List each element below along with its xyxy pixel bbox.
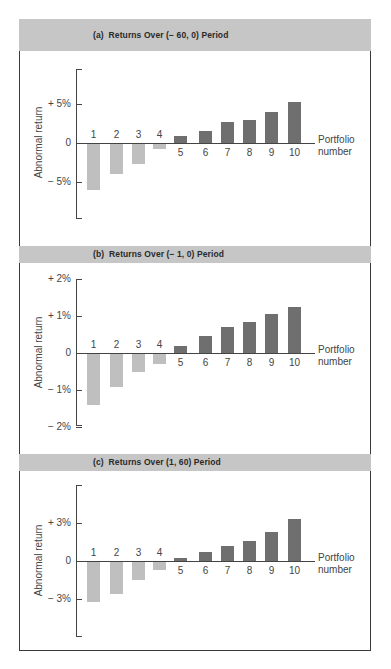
panel-b-x-axis-label: Portfolionumber: [318, 344, 355, 368]
panel-b-category-label: 4: [150, 339, 170, 350]
panel-a-bar-6: [199, 131, 212, 143]
panel-c-bar-7: [221, 546, 234, 561]
panel-c-category-label: 7: [218, 565, 238, 576]
panel-c-y-tick: [76, 599, 82, 600]
panel-b-category-label: 10: [285, 357, 305, 368]
x-label-line-2: number: [318, 146, 355, 158]
panel-a-axis-bottom-cap: [76, 218, 82, 219]
panel-c-category-label: 8: [240, 565, 260, 576]
panel-b-y-tick-label: − 2%: [31, 421, 71, 432]
panel-a-category-label: 3: [129, 129, 149, 140]
panel-b-bar-6: [199, 336, 212, 353]
panel-c-category-label: 9: [262, 565, 282, 576]
panel-b-bar-10: [288, 307, 301, 353]
panel-a-category-label: 10: [285, 147, 305, 158]
panel-a-bar-9: [265, 112, 278, 143]
panel-c-category-label: 6: [196, 565, 216, 576]
panel-b-y-axis-label: Abnormal return: [33, 313, 44, 393]
panel-b-bar-1: [87, 354, 100, 405]
panel-c-bar-2: [110, 562, 123, 594]
panel-a-category-label: 2: [107, 129, 127, 140]
panel-c-bar-6: [199, 552, 212, 561]
panel-b-bar-5: [174, 346, 187, 353]
panel-b-category-label: 3: [129, 339, 149, 350]
x-label-line-2: number: [318, 356, 355, 368]
panel-b-y-axis: [76, 279, 77, 425]
panel-b-title: (b) Returns Over (− 1, 0) Period: [93, 249, 224, 259]
panel-b-category-label: 1: [84, 339, 104, 350]
panel-b-header: (b) Returns Over (− 1, 0) Period: [19, 246, 371, 263]
panel-c-bar-10: [288, 519, 301, 561]
panel-c-category-label: 1: [84, 547, 104, 558]
panel-b-category-label: 7: [218, 357, 238, 368]
panel-b-bar-7: [221, 327, 234, 353]
panel-a-bar-4: [153, 144, 166, 149]
panel-b-axis-bottom-cap: [76, 425, 82, 426]
panel-a-category-label: 6: [196, 147, 216, 158]
panel-a-axis-top-cap: [76, 69, 82, 70]
panel-a-title: (a) Returns Over (− 60, 0) Period: [93, 30, 228, 40]
panel-c-bar-1: [87, 562, 100, 602]
panel-a-category-label: 5: [171, 147, 191, 158]
panel-c-y-tick: [76, 523, 82, 524]
panel-b-bar-8: [243, 322, 256, 353]
panel-c-axis-top-cap: [76, 485, 82, 486]
x-label-line-1: Portfolio: [318, 344, 355, 356]
panel-a-category-label: 7: [218, 147, 238, 158]
panel-b-y-tick: [76, 279, 82, 280]
panel-b-bar-3: [132, 354, 145, 372]
panel-c-bar-4: [153, 562, 166, 570]
panel-c-x-axis-label: Portfolionumber: [318, 552, 355, 576]
panel-b-category-label: 8: [240, 357, 260, 368]
panel-b-bar-4: [153, 354, 166, 364]
panel-a-category-label: 9: [262, 147, 282, 158]
panel-c-header: (c) Returns Over (1, 60) Period: [19, 454, 371, 471]
panel-c-category-label: 5: [171, 565, 191, 576]
panel-a-bar-2: [110, 144, 123, 174]
panel-a-bar-8: [243, 120, 256, 143]
panel-b-y-tick: [76, 316, 82, 317]
panel-b-category-label: 6: [196, 357, 216, 368]
panel-b-y-tick-label: + 2%: [31, 273, 71, 284]
panel-c-category-label: 4: [150, 547, 170, 558]
x-label-line-1: Portfolio: [318, 134, 355, 146]
panel-a-x-axis-label: Portfolionumber: [318, 134, 355, 158]
x-label-line-2: number: [318, 564, 355, 576]
panel-c-bar-5: [174, 558, 187, 561]
panel-c-title: (c) Returns Over (1, 60) Period: [93, 457, 221, 467]
panel-a-bar-7: [221, 122, 234, 143]
panel-b-y-tick: [76, 427, 82, 428]
panel-b-category-label: 9: [262, 357, 282, 368]
panel-a-category-label: 8: [240, 147, 260, 158]
panel-a-bar-3: [132, 144, 145, 164]
panel-b-bar-2: [110, 354, 123, 387]
panel-c-axis-bottom-cap: [76, 636, 82, 637]
panel-a-bar-1: [87, 144, 100, 190]
panel-a-bar-10: [288, 102, 301, 143]
x-label-line-1: Portfolio: [318, 552, 355, 564]
panel-b-category-label: 5: [171, 357, 191, 368]
panel-c-category-label: 2: [107, 547, 127, 558]
panel-b-category-label: 2: [107, 339, 127, 350]
figure: (a) Returns Over (− 60, 0) Period + 5%0−…: [0, 0, 391, 669]
panel-a-y-axis-label: Abnormal return: [33, 103, 44, 183]
panel-c-category-label: 10: [285, 565, 305, 576]
panel-a-category-label: 1: [84, 129, 104, 140]
panel-b-y-tick: [76, 390, 82, 391]
panel-b-bar-9: [265, 314, 278, 353]
panel-c-y-axis-label: Abnormal return: [33, 521, 44, 601]
panel-a-bar-5: [174, 136, 187, 143]
panel-c-bar-3: [132, 562, 145, 580]
panel-a-y-tick: [76, 182, 82, 183]
panel-c-bar-8: [243, 541, 256, 561]
panel-c-category-label: 3: [129, 547, 149, 558]
panel-a-y-tick: [76, 104, 82, 105]
panel-a-category-label: 4: [150, 129, 170, 140]
panel-a-header: (a) Returns Over (− 60, 0) Period: [19, 19, 371, 51]
panel-c-bar-9: [265, 532, 278, 561]
